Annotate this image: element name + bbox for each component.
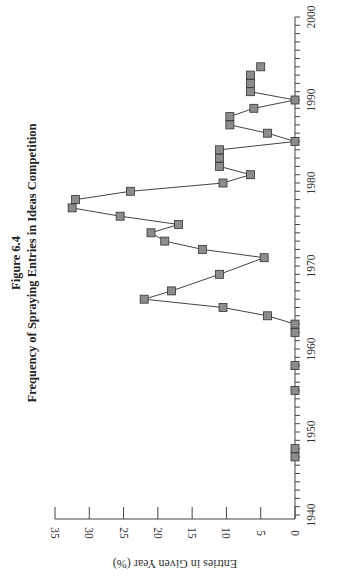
data-point-marker xyxy=(291,387,299,395)
year-tick-label: 1980 xyxy=(305,171,317,194)
data-point-marker xyxy=(246,88,254,96)
data-point-marker xyxy=(257,63,265,71)
data-point-marker xyxy=(219,179,227,187)
data-point-marker xyxy=(291,328,299,336)
rotated-line-chart: Figure 6.4 Frequency of Spraying Entries… xyxy=(0,0,337,578)
data-point-marker xyxy=(174,221,182,229)
data-point-marker xyxy=(246,171,254,179)
data-point-marker xyxy=(219,304,227,312)
data-point-marker xyxy=(72,196,80,204)
data-point-marker xyxy=(291,320,299,328)
data-point-marker xyxy=(291,453,299,461)
value-tick-label: 30 xyxy=(83,527,95,539)
year-tick-label: 1950 xyxy=(305,420,317,443)
data-series xyxy=(68,63,299,461)
year-tick-label: 1990 xyxy=(305,88,317,111)
data-point-marker xyxy=(264,129,272,137)
data-point-marker xyxy=(216,154,224,162)
data-point-marker xyxy=(161,237,169,245)
data-point-marker xyxy=(198,245,206,253)
value-tick-label: 15 xyxy=(186,527,198,539)
figure-label: Figure 6.4 xyxy=(9,235,23,290)
chart-title: Frequency of Spraying Entries in Ideas C… xyxy=(25,123,39,402)
value-tick-label: 5 xyxy=(255,530,267,536)
value-tick-label: 25 xyxy=(118,527,130,539)
data-point-marker xyxy=(147,229,155,237)
value-tick-label: 10 xyxy=(220,527,232,539)
data-point-marker xyxy=(226,113,234,121)
data-point-marker xyxy=(226,121,234,129)
data-point-marker xyxy=(291,362,299,370)
data-point-marker xyxy=(260,254,268,262)
data-point-marker xyxy=(216,270,224,278)
data-point-marker xyxy=(264,312,272,320)
year-tick-label: 1960 xyxy=(305,337,317,360)
data-point-marker xyxy=(216,146,224,154)
chart-titles: Figure 6.4 Frequency of Spraying Entries… xyxy=(9,123,39,402)
data-point-marker xyxy=(250,104,258,112)
axes: 1940195019601970198019902000051015202530… xyxy=(49,5,317,539)
data-point-marker xyxy=(291,445,299,453)
data-point-marker xyxy=(126,187,134,195)
value-tick-label: 35 xyxy=(49,527,61,539)
year-tick-label: 1940 xyxy=(305,503,317,526)
data-point-marker xyxy=(291,96,299,104)
year-tick-label: 2000 xyxy=(305,5,317,28)
data-point-marker xyxy=(68,204,76,212)
data-point-marker xyxy=(246,79,254,87)
value-axis-label: Entries in Given Year (%) xyxy=(113,557,237,571)
year-tick-label: 1970 xyxy=(305,254,317,277)
data-point-marker xyxy=(246,71,254,79)
data-point-marker xyxy=(291,138,299,146)
data-point-marker xyxy=(140,295,148,303)
data-point-marker xyxy=(216,162,224,170)
data-point-marker xyxy=(116,212,124,220)
value-tick-label: 20 xyxy=(152,527,164,539)
value-tick-label: 0 xyxy=(289,530,301,536)
data-point-marker xyxy=(168,287,176,295)
series-line xyxy=(72,75,295,332)
